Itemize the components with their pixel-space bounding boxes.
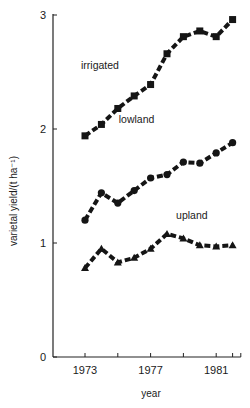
circle-marker <box>114 200 121 207</box>
triangle-marker <box>163 230 171 237</box>
square-marker <box>213 33 220 40</box>
square-marker <box>131 92 138 99</box>
square-marker <box>114 105 121 112</box>
series-label-lowland: lowland <box>119 113 155 125</box>
circle-marker <box>196 160 203 167</box>
circle-marker <box>131 187 138 194</box>
square-marker <box>82 132 89 139</box>
y-tick-label: 0 <box>40 351 46 363</box>
x-axis-title: year <box>141 388 161 399</box>
square-marker <box>98 121 105 128</box>
y-tick-label: 2 <box>40 123 46 135</box>
circle-marker <box>163 171 170 178</box>
triangle-marker <box>229 241 237 248</box>
square-marker <box>229 16 236 23</box>
line-chart: 0123197319771981 yearvarietal yield/(t h… <box>0 0 250 408</box>
circle-marker <box>180 158 187 165</box>
series-label-irrigated: irrigated <box>81 59 119 71</box>
circle-marker <box>147 174 154 181</box>
y-tick-label: 3 <box>40 9 46 21</box>
x-tick-label: 1977 <box>138 364 162 376</box>
circle-marker <box>213 149 220 156</box>
labels-group: yearvarietal yield/(t ha⁻¹)irrigatedlowl… <box>8 59 208 399</box>
square-marker <box>147 81 154 88</box>
square-marker <box>196 27 203 34</box>
x-tick-label: 1981 <box>204 364 228 376</box>
x-tick-label: 1973 <box>73 364 97 376</box>
y-axis-title: varietal yield/(t ha⁻¹) <box>8 156 19 246</box>
series-lowland <box>81 139 236 224</box>
square-marker <box>180 33 187 40</box>
circle-marker <box>81 217 88 224</box>
series-line <box>85 143 233 221</box>
series-group <box>81 16 237 271</box>
square-marker <box>164 50 171 57</box>
circle-marker <box>229 139 236 146</box>
triangle-marker <box>97 245 105 252</box>
series-irrigated <box>82 16 237 139</box>
circle-marker <box>98 189 105 196</box>
axes: 0123197319771981 <box>40 9 241 376</box>
y-tick-label: 1 <box>40 237 46 249</box>
series-upland <box>81 230 237 271</box>
series-line <box>85 20 233 136</box>
series-line <box>85 234 233 268</box>
series-label-upland: upland <box>176 209 208 221</box>
